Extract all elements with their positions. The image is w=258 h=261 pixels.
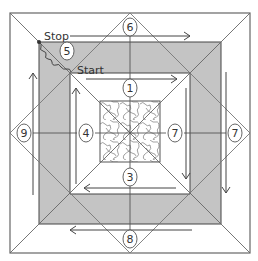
svg-text:1: 1 bbox=[127, 82, 134, 95]
marker-m7a: 7 bbox=[168, 124, 182, 142]
svg-text:7: 7 bbox=[172, 127, 179, 140]
stop-dot bbox=[37, 40, 41, 44]
svg-text:8: 8 bbox=[127, 233, 134, 246]
marker-m8: 8 bbox=[123, 230, 137, 248]
marker-m5: 5 bbox=[60, 42, 74, 60]
marker-m7b: 7 bbox=[228, 124, 242, 142]
svg-text:9: 9 bbox=[21, 127, 28, 140]
svg-text:7: 7 bbox=[232, 127, 239, 140]
svg-text:5: 5 bbox=[64, 45, 71, 58]
marker-m1: 1 bbox=[123, 79, 137, 97]
marker-m3: 3 bbox=[123, 168, 137, 186]
svg-text:6: 6 bbox=[127, 21, 134, 34]
quilt-diagram: Stop Start 1 3 4 7 5 6 7 8 9 bbox=[0, 0, 258, 261]
svg-text:3: 3 bbox=[127, 171, 134, 184]
svg-text:4: 4 bbox=[83, 127, 90, 140]
marker-m4: 4 bbox=[79, 124, 93, 142]
marker-m9: 9 bbox=[17, 124, 31, 142]
start-label: Start bbox=[77, 64, 105, 77]
marker-m6: 6 bbox=[123, 18, 137, 36]
stop-label: Stop bbox=[44, 30, 69, 43]
